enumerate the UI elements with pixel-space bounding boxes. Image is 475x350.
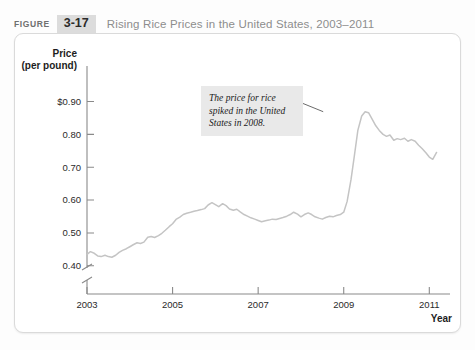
figure-card: 0.400.500.600.700.80$0.90200320052007200… — [14, 33, 461, 333]
y-axis-tick-label: 0.50 — [63, 227, 82, 238]
y-axis-tick-label: 0.70 — [63, 162, 82, 173]
y-axis-break-mark — [82, 264, 92, 283]
x-axis-title: Year — [431, 313, 452, 324]
y-axis-tick-label: 0.40 — [63, 260, 82, 271]
y-axis-title-line1: Price — [53, 48, 78, 59]
x-axis-tick-label: 2007 — [248, 299, 269, 310]
x-axis-tick-label: 2003 — [76, 299, 97, 310]
x-axis-tick-label: 2009 — [333, 299, 354, 310]
y-axis-title-line2: (per pound) — [21, 60, 77, 71]
figure-number-badge: 3-17 — [57, 15, 96, 33]
y-axis-tick-label: $0.90 — [57, 96, 81, 107]
y-axis-tick-label: 0.60 — [63, 194, 82, 205]
x-axis-tick-label: 2011 — [419, 299, 439, 310]
line-chart: 0.400.500.600.700.80$0.90200320052007200… — [15, 34, 461, 333]
figure-header: FIGURE 3-17 Rising Rice Prices in the Un… — [0, 14, 475, 34]
figure-word-label: FIGURE — [14, 19, 50, 29]
y-axis-tick-label: 0.80 — [63, 129, 82, 140]
figure-title: Rising Rice Prices in the United States,… — [107, 18, 374, 30]
chart-annotation: The price for rice spiked in the United … — [201, 86, 303, 136]
x-axis-tick-label: 2005 — [162, 299, 183, 310]
